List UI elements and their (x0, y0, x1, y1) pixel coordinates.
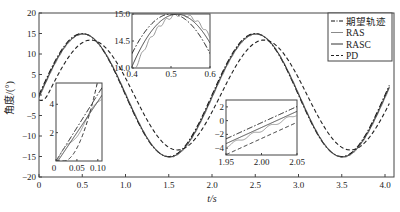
y-tick-label: 20 (27, 8, 37, 18)
y-tick-label: −15 (22, 152, 37, 162)
legend-entry: 期望轨迹 (346, 16, 386, 27)
y-tick-label: −5 (26, 111, 36, 121)
inset-y-tick: 4 (50, 99, 55, 109)
y-tick-label: 15 (27, 29, 37, 39)
legend-entry: RAS (346, 28, 364, 38)
inset-x-tick: 0.6 (204, 69, 216, 79)
inset-y-tick: 14.0 (114, 63, 130, 73)
legend: 期望轨迹RASRASCPD (328, 13, 392, 61)
x-tick-label: 2.5 (250, 180, 262, 190)
x-tick-label: 3.5 (336, 180, 348, 190)
chart: 00.51.01.52.02.53.03.54.020151050−5−10−1… (0, 0, 400, 212)
y-tick-label: 5 (32, 70, 37, 80)
inset-y-tick: 0 (220, 116, 225, 126)
x-tick-label: 0 (37, 180, 42, 190)
inset-start: 00.050.1042 (50, 61, 107, 173)
y-axis-label: 角度/(°) (3, 81, 16, 114)
x-tick-label: 0.5 (77, 180, 89, 190)
x-tick-label: 1.5 (163, 180, 175, 190)
x-tick-label: 2.0 (206, 180, 218, 190)
x-tick-label: 3.0 (293, 180, 305, 190)
inset-y-tick: 2 (220, 102, 225, 112)
inset-x-tick: 2.05 (289, 157, 305, 167)
y-tick-label: 10 (27, 49, 37, 59)
inset-x-tick: 0.10 (90, 163, 106, 173)
y-tick-label: −10 (22, 131, 37, 141)
inset-y-tick: 15.0 (114, 9, 130, 19)
inset-x-tick: 2.00 (254, 157, 270, 167)
y-tick-label: 0 (32, 90, 37, 100)
x-tick-label: 1.0 (120, 180, 132, 190)
inset-y-tick: −2 (214, 129, 224, 139)
y-tick-label: −20 (22, 172, 37, 182)
legend-entry: RASC (346, 40, 371, 50)
x-axis-label: t/s (207, 193, 217, 204)
inset-x-tick: 0 (52, 163, 57, 173)
inset-y-tick: 2 (50, 128, 55, 138)
x-tick-label: 4.0 (379, 180, 391, 190)
legend-entry: PD (346, 51, 358, 61)
inset-x-tick: 0.05 (69, 163, 85, 173)
inset-y-tick: −4 (214, 143, 224, 153)
inset-x-tick: 0.5 (165, 69, 177, 79)
inset-y-tick: 14.5 (114, 36, 130, 46)
inset-x-tick: 1.95 (218, 157, 234, 167)
inset-crossing: 1.952.002.0520−2−4 (214, 100, 305, 167)
